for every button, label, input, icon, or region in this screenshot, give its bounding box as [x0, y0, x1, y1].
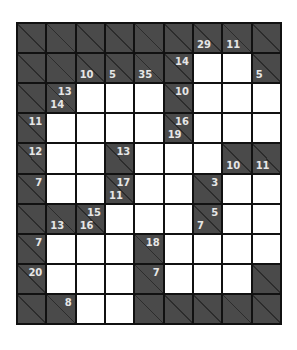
clue-cell: 10	[165, 84, 192, 112]
block-cell	[165, 24, 192, 52]
entry-cell[interactable]	[165, 235, 192, 263]
clue-cell: 7	[18, 175, 45, 203]
entry-cell[interactable]	[194, 54, 221, 82]
entry-cell[interactable]	[135, 205, 162, 233]
entry-cell[interactable]	[223, 114, 250, 142]
down-clue: 11	[109, 191, 123, 201]
entry-cell[interactable]	[194, 265, 221, 293]
entry-cell[interactable]	[223, 54, 250, 82]
clue-cell: 20	[18, 265, 45, 293]
entry-cell[interactable]	[77, 84, 104, 112]
down-clue: 5	[109, 70, 116, 80]
block-cell	[18, 84, 45, 112]
entry-cell[interactable]	[47, 265, 74, 293]
entry-cell[interactable]	[253, 114, 280, 142]
entry-cell[interactable]	[223, 235, 250, 263]
clue-cell: 10	[77, 54, 104, 82]
block-cell	[18, 295, 45, 323]
kakuro-board: 2911105351451314101116191213101171711313…	[16, 22, 282, 325]
entry-cell[interactable]	[135, 144, 162, 172]
entry-cell[interactable]	[77, 175, 104, 203]
clue-cell: 13	[47, 205, 74, 233]
entry-cell[interactable]	[47, 114, 74, 142]
clue-cell: 1619	[165, 114, 192, 142]
across-clue: 7	[153, 268, 160, 278]
block-cell	[194, 295, 221, 323]
across-clue: 13	[58, 87, 72, 97]
down-clue: 13	[50, 221, 64, 231]
entry-cell[interactable]	[135, 114, 162, 142]
entry-cell[interactable]	[106, 235, 133, 263]
across-clue: 5	[211, 208, 218, 218]
clue-cell: 5	[106, 54, 133, 82]
clue-cell: 13	[106, 144, 133, 172]
across-clue: 14	[175, 57, 189, 67]
entry-cell[interactable]	[223, 205, 250, 233]
entry-cell[interactable]	[106, 265, 133, 293]
down-clue: 7	[197, 221, 204, 231]
block-cell	[106, 24, 133, 52]
entry-cell[interactable]	[135, 84, 162, 112]
entry-cell[interactable]	[135, 175, 162, 203]
across-clue: 20	[28, 268, 42, 278]
entry-cell[interactable]	[77, 144, 104, 172]
entry-cell[interactable]	[106, 295, 133, 323]
down-clue: 11	[256, 161, 270, 171]
entry-cell[interactable]	[253, 205, 280, 233]
clue-cell: 1516	[77, 205, 104, 233]
clue-cell: 1314	[47, 84, 74, 112]
entry-cell[interactable]	[165, 175, 192, 203]
across-clue: 16	[175, 117, 189, 127]
block-cell	[18, 54, 45, 82]
down-clue: 11	[226, 40, 240, 50]
clue-cell: 1711	[106, 175, 133, 203]
entry-cell[interactable]	[223, 265, 250, 293]
entry-cell[interactable]	[47, 235, 74, 263]
entry-cell[interactable]	[106, 205, 133, 233]
entry-cell[interactable]	[223, 84, 250, 112]
clue-cell: 12	[18, 144, 45, 172]
entry-cell[interactable]	[77, 265, 104, 293]
entry-cell[interactable]	[47, 175, 74, 203]
entry-cell[interactable]	[47, 144, 74, 172]
entry-cell[interactable]	[253, 175, 280, 203]
entry-cell[interactable]	[106, 84, 133, 112]
clue-cell: 29	[194, 24, 221, 52]
clue-cell: 3	[194, 175, 221, 203]
down-clue: 35	[138, 70, 152, 80]
across-clue: 13	[116, 147, 130, 157]
entry-cell[interactable]	[253, 84, 280, 112]
down-clue: 14	[50, 100, 64, 110]
clue-cell: 7	[135, 265, 162, 293]
block-cell	[18, 205, 45, 233]
entry-cell[interactable]	[165, 205, 192, 233]
entry-cell[interactable]	[253, 235, 280, 263]
block-cell	[223, 295, 250, 323]
clue-cell: 11	[18, 114, 45, 142]
block-cell	[18, 24, 45, 52]
entry-cell[interactable]	[165, 265, 192, 293]
block-cell	[47, 54, 74, 82]
entry-cell[interactable]	[106, 114, 133, 142]
across-clue: 11	[28, 117, 42, 127]
entry-cell[interactable]	[194, 235, 221, 263]
clue-cell: 5	[253, 54, 280, 82]
entry-cell[interactable]	[194, 144, 221, 172]
entry-cell[interactable]	[165, 144, 192, 172]
across-clue: 18	[146, 238, 160, 248]
across-clue: 7	[35, 178, 42, 188]
block-cell	[77, 24, 104, 52]
entry-cell[interactable]	[77, 295, 104, 323]
entry-cell[interactable]	[194, 84, 221, 112]
down-clue: 10	[80, 70, 94, 80]
entry-cell[interactable]	[194, 114, 221, 142]
across-clue: 3	[211, 178, 218, 188]
clue-cell: 18	[135, 235, 162, 263]
down-clue: 29	[197, 40, 211, 50]
clue-cell: 35	[135, 54, 162, 82]
across-clue: 7	[35, 238, 42, 248]
entry-cell[interactable]	[223, 175, 250, 203]
entry-cell[interactable]	[77, 235, 104, 263]
clue-cell: 11	[223, 24, 250, 52]
entry-cell[interactable]	[77, 114, 104, 142]
